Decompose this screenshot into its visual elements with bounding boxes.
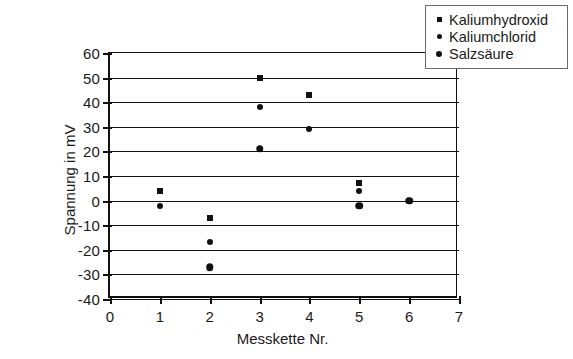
x-tick-label: 2 bbox=[206, 308, 214, 325]
x-tick-label: 3 bbox=[255, 308, 263, 325]
gridline bbox=[110, 299, 459, 300]
data-point bbox=[207, 215, 213, 221]
y-tick-label: 0 bbox=[91, 192, 100, 209]
data-point bbox=[157, 188, 163, 194]
gridline bbox=[110, 250, 459, 251]
data-point bbox=[356, 180, 362, 186]
plot-area: 6050403020100-10-20-30-40 01234567 bbox=[108, 52, 457, 298]
y-tick-label: 20 bbox=[83, 143, 100, 160]
legend-marker-icon bbox=[433, 51, 445, 57]
y-tick bbox=[103, 176, 112, 178]
y-tick bbox=[103, 53, 112, 55]
data-point bbox=[157, 203, 163, 209]
data-point bbox=[206, 263, 214, 271]
x-tick-label: 5 bbox=[355, 308, 363, 325]
legend-item: Salzsäure bbox=[433, 45, 561, 62]
x-tick bbox=[160, 296, 162, 304]
data-point bbox=[257, 104, 263, 110]
y-tick bbox=[103, 250, 112, 252]
data-point bbox=[306, 92, 312, 98]
y-tick-label: -20 bbox=[78, 241, 100, 258]
x-tick bbox=[409, 296, 411, 304]
legend-marker-icon bbox=[433, 34, 445, 39]
gridline bbox=[110, 151, 459, 152]
data-point bbox=[256, 145, 264, 153]
scatter-chart: Spannung in mV 6050403020100-10-20-30-40… bbox=[0, 0, 573, 359]
legend-marker-icon bbox=[433, 17, 445, 22]
legend-item: Kaliumhydroxid bbox=[433, 11, 561, 28]
y-tick-label: -40 bbox=[78, 291, 100, 308]
gridline bbox=[110, 78, 459, 79]
y-tick bbox=[103, 201, 112, 203]
y-tick-label: 40 bbox=[83, 94, 100, 111]
y-tick bbox=[103, 151, 112, 153]
y-tick-label: -30 bbox=[78, 266, 100, 283]
y-tick bbox=[103, 274, 112, 276]
gridline bbox=[110, 225, 459, 226]
y-tick-label: 10 bbox=[83, 168, 100, 185]
legend-item-label: Kaliumhydroxid bbox=[449, 12, 548, 28]
x-tick-label: 4 bbox=[305, 308, 313, 325]
x-axis-title: Messkette Nr. bbox=[108, 330, 457, 347]
legend-item-label: Salzsäure bbox=[449, 46, 513, 62]
x-tick bbox=[459, 296, 461, 304]
data-point bbox=[207, 239, 213, 245]
x-tick bbox=[309, 296, 311, 304]
y-tick-label: 50 bbox=[83, 69, 100, 86]
legend-item: Kaliumchlorid bbox=[433, 28, 561, 45]
x-tick bbox=[260, 296, 262, 304]
legend: KaliumhydroxidKaliumchloridSalzsäure bbox=[425, 5, 568, 69]
y-tick-label: 60 bbox=[83, 45, 100, 62]
gridline bbox=[110, 102, 459, 103]
gridline bbox=[110, 274, 459, 275]
data-point bbox=[405, 197, 413, 205]
y-tick bbox=[103, 102, 112, 104]
y-tick bbox=[103, 127, 112, 129]
gridline bbox=[110, 127, 459, 128]
x-tick-label: 6 bbox=[405, 308, 413, 325]
data-point bbox=[257, 75, 263, 81]
data-point bbox=[356, 202, 364, 210]
x-tick bbox=[110, 296, 112, 304]
y-tick-label: -10 bbox=[78, 217, 100, 234]
x-tick bbox=[359, 296, 361, 304]
gridline bbox=[110, 176, 459, 177]
data-point bbox=[306, 126, 312, 132]
legend-item-label: Kaliumchlorid bbox=[449, 29, 536, 45]
data-point bbox=[356, 188, 362, 194]
x-tick-label: 1 bbox=[156, 308, 164, 325]
x-tick-label: 0 bbox=[106, 308, 114, 325]
y-tick-label: 30 bbox=[83, 118, 100, 135]
x-tick-label: 7 bbox=[455, 308, 463, 325]
y-tick bbox=[103, 78, 112, 80]
y-tick bbox=[103, 225, 112, 227]
y-axis-title: Spannung in mV bbox=[61, 124, 78, 235]
x-tick bbox=[210, 296, 212, 304]
